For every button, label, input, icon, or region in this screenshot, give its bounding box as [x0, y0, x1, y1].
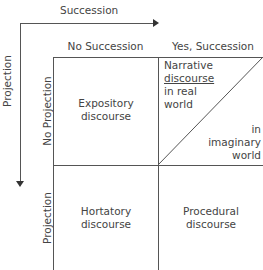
narrative-line-1: Narrative [164, 59, 214, 72]
cell-narrative-real-world: Narrative discourse in real world [164, 59, 214, 111]
narrative-line-2: discourse [164, 72, 214, 85]
projection-axis-line [20, 23, 21, 181]
grid-left-border [53, 57, 54, 270]
imaginary-line-1: in [208, 123, 261, 136]
column-header-yes-succession: Yes, Succession [158, 40, 263, 52]
cell-hortatory-discourse: Hortatory discourse [60, 198, 152, 238]
imaginary-line-2: imaginary [208, 136, 261, 149]
projection-axis-label: Projection [1, 57, 13, 107]
narrative-line-3: in real [164, 85, 214, 98]
row-header-projection: Projection [41, 178, 53, 258]
cell-narrative-imaginary-world: in imaginary world [208, 123, 261, 162]
succession-arrow-icon [153, 19, 159, 27]
column-header-no-succession: No Succession [53, 40, 158, 52]
succession-axis-label: Succession [60, 4, 118, 16]
succession-axis-line [20, 23, 154, 24]
narrative-line-4: world [164, 98, 214, 111]
cell-expository-discourse: Expository discourse [60, 90, 152, 130]
imaginary-line-3: world [208, 149, 261, 162]
row-header-no-projection: No Projection [41, 71, 53, 151]
projection-arrow-icon [16, 181, 24, 187]
cell-procedural-discourse: Procedural discourse [165, 198, 257, 238]
